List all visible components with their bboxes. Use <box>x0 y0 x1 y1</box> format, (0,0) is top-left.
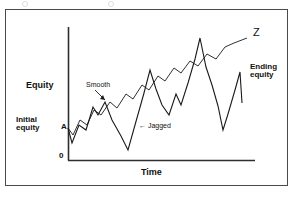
ending-equity-label: Ending equity <box>250 63 277 80</box>
smooth-annotation: Smooth <box>86 81 110 88</box>
origin-label: 0 <box>59 152 63 160</box>
point-z-label: Z <box>253 27 260 39</box>
point-a-label: A <box>61 123 67 131</box>
smooth-annotation-arrow <box>95 90 105 100</box>
jagged-annotation: ← Jagged <box>139 122 171 129</box>
initial-equity-label: Initial equity <box>16 116 40 133</box>
y-axis-title: Equity <box>26 81 54 90</box>
series-jagged-line <box>68 38 242 150</box>
figure-screenshot: Equity Initial equity A 0 Z Ending equit… <box>0 0 295 199</box>
x-axis-title: Time <box>141 168 162 177</box>
